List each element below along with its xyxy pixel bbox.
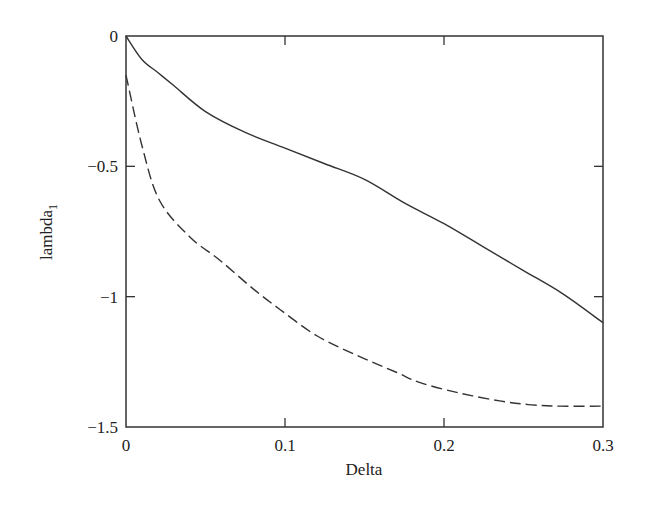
axis-ticks	[126, 36, 603, 427]
dashed-series-line	[126, 75, 603, 406]
x-tick-label: 0.1	[274, 436, 295, 455]
y-tick-label: 0	[110, 27, 119, 46]
x-tick-label: 0	[122, 436, 131, 455]
y-tick-label: −1.5	[87, 418, 118, 437]
y-axis-label: lambda1	[37, 204, 60, 260]
solid-series-line	[126, 36, 603, 323]
line-chart: 00.10.20.30−0.5−1−1.5 Delta lambda1	[0, 0, 650, 505]
y-tick-label: −1	[100, 288, 118, 307]
y-tick-label: −0.5	[87, 157, 118, 176]
plot-lines	[126, 36, 603, 406]
tick-labels: 00.10.20.30−0.5−1−1.5	[87, 27, 613, 455]
plot-frame	[126, 36, 603, 427]
y-axis-label-subscript: 1	[46, 204, 60, 210]
y-axis-label-main: lambda	[37, 210, 56, 260]
x-tick-label: 0.3	[592, 436, 613, 455]
x-tick-label: 0.2	[433, 436, 454, 455]
x-axis-label: Delta	[346, 460, 383, 479]
